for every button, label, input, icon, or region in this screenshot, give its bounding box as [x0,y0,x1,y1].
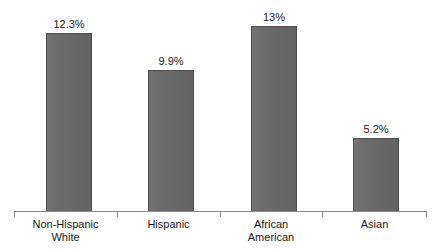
x-axis-tick-0 [14,211,15,217]
x-axis-tick-1 [117,211,118,217]
bar-non-hispanic-white[interactable] [46,33,92,212]
category-label-line-0-1: White [14,231,117,244]
category-label-african-american: African American [220,218,322,244]
bar-chart: 12.3% 9.9% 13% 5.2% Non-Hispanic White H… [0,0,441,251]
category-label-non-hispanic-white: Non-Hispanic White [14,218,117,244]
category-label-asian: Asian [322,218,427,231]
bar-value-label-2: 13% [234,11,314,23]
x-axis-tick-4 [426,211,427,217]
bar-value-label-3: 5.2% [336,123,416,135]
bar-hispanic[interactable] [148,70,194,212]
category-label-line-0-0: Non-Hispanic [14,218,117,231]
x-axis-tick-2 [220,211,221,217]
plot-area: 12.3% 9.9% 13% 5.2% [0,0,441,212]
bar-african-american[interactable] [251,26,297,212]
bar-asian[interactable] [353,138,399,212]
category-label-hispanic: Hispanic [117,218,220,231]
category-axis-labels: Non-Hispanic White Hispanic African Amer… [0,218,441,251]
category-label-line-2-1: American [220,231,322,244]
x-axis-tick-3 [322,211,323,217]
bar-value-label-0: 12.3% [29,18,109,30]
bar-value-label-1: 9.9% [131,55,211,67]
category-label-line-1-0: Hispanic [117,218,220,231]
category-label-line-3-0: Asian [322,218,427,231]
category-label-line-2-0: African [220,218,322,231]
